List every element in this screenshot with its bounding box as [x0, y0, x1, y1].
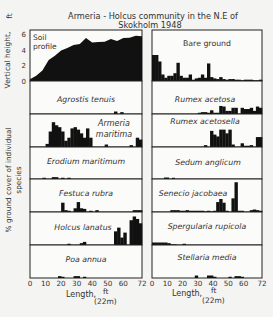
- soil-tick-label: 0: [22, 78, 26, 86]
- bar: [155, 55, 158, 81]
- bar: [74, 208, 77, 212]
- bar: [49, 132, 52, 148]
- bar: [74, 127, 77, 147]
- bar: [244, 109, 247, 114]
- bar: [74, 276, 77, 278]
- bar: [55, 125, 58, 147]
- panel-stellaria-media: Stellaria media: [152, 245, 262, 278]
- y-unit-ft: ft: [5, 13, 14, 19]
- bar: [219, 130, 222, 147]
- bar: [83, 277, 86, 278]
- bar: [80, 133, 83, 147]
- bar: [219, 199, 222, 212]
- soil-tick-label: 4: [22, 47, 27, 55]
- panel-label: Soil: [33, 33, 47, 42]
- x-ticks-right: 010203040506072: [150, 279, 267, 288]
- bar: [61, 277, 64, 278]
- bar: [136, 138, 139, 147]
- bar: [207, 276, 210, 278]
- bar: [133, 216, 136, 245]
- bar: [70, 128, 73, 147]
- right-column-panels: Bare groundRumex acetosaRumex acetosella…: [152, 30, 262, 278]
- bar: [77, 130, 80, 147]
- x-unit-left: ft: [103, 287, 109, 296]
- panel-bare-ground: Bare ground: [152, 30, 262, 81]
- bar: [170, 76, 173, 81]
- panel-label: maritima: [96, 130, 132, 139]
- bar: [235, 108, 238, 114]
- soil-y-ticks: 0246: [22, 31, 27, 86]
- x-tick-label: 10: [163, 279, 173, 288]
- bar: [231, 108, 234, 114]
- panel-label: Poa annua: [65, 255, 106, 264]
- panel-label: Rumex acetosa: [175, 95, 236, 104]
- panel-label: Bare ground: [183, 39, 231, 48]
- bar: [61, 132, 64, 148]
- x-tick-label: 72: [257, 279, 266, 288]
- bar: [256, 107, 259, 114]
- panel-label: Rumex acetosella: [170, 117, 240, 126]
- bar: [210, 276, 213, 278]
- bar: [247, 109, 250, 114]
- bar: [161, 75, 164, 82]
- x-tick-label: 20: [57, 279, 67, 288]
- panel-label: Erodium maritimum: [47, 157, 126, 166]
- bar: [80, 208, 83, 212]
- panel-erodium-maritimum: Erodium maritimum: [30, 147, 142, 179]
- bar: [83, 138, 86, 147]
- bar: [213, 277, 216, 278]
- bar: [176, 63, 179, 81]
- bar: [139, 140, 142, 147]
- soil-tick-label: 2: [22, 62, 26, 70]
- panel-label: Festuca rubra: [59, 189, 113, 198]
- bar: [216, 136, 219, 147]
- bar: [167, 76, 170, 81]
- panel-rumex-acetosella: Rumex acetosella: [152, 114, 262, 147]
- panel-senecio-jacobaea: Senecio jacobaea: [152, 179, 262, 212]
- x-label-right: Length,: [172, 289, 202, 298]
- bar: [235, 182, 238, 212]
- x-tick-label: 30: [72, 279, 82, 288]
- bar: [222, 203, 225, 212]
- bar: [120, 238, 123, 245]
- bar: [58, 276, 61, 278]
- panel-rumex-acetosa: Rumex acetosa: [152, 81, 262, 114]
- x-tick-label: 10: [41, 279, 51, 288]
- x-tick-label: 50: [224, 279, 234, 288]
- bar: [77, 276, 80, 278]
- bar: [61, 203, 64, 212]
- bar: [235, 276, 238, 278]
- panel-label: Agrostis tenuis: [56, 95, 115, 104]
- x-ticks-left: 010203040506072: [28, 279, 147, 288]
- bar: [86, 128, 89, 147]
- bar: [241, 143, 244, 147]
- panel-label: Holcus lanatus: [54, 223, 111, 232]
- x-tick-label: 72: [137, 279, 146, 288]
- bar: [225, 133, 228, 147]
- bar: [219, 77, 222, 81]
- bar: [210, 77, 213, 81]
- x-tick-label: 30: [193, 279, 203, 288]
- bar: [89, 138, 92, 147]
- bar: [152, 55, 155, 81]
- bar: [180, 76, 183, 81]
- x-tick-label: 40: [88, 279, 98, 288]
- bar: [228, 277, 231, 278]
- y-label-ground-cover-1: % ground cover of individual: [4, 128, 13, 233]
- panel-label: Spergularia rupicola: [168, 222, 247, 231]
- bar: [216, 202, 219, 212]
- bar: [210, 110, 213, 114]
- panel-armeria-maritima: Armeriamaritima: [30, 114, 142, 147]
- bar: [250, 108, 253, 114]
- figure-title-line2: Skokholm 1948: [118, 20, 181, 30]
- bar: [241, 277, 244, 278]
- y-label-ground-cover-2: species: [14, 166, 23, 193]
- bar: [114, 231, 117, 245]
- x-tick-label: 0: [150, 279, 155, 288]
- panel-festuca-rubra: Festuca rubra: [30, 179, 142, 212]
- bar: [222, 107, 225, 114]
- bar: [207, 63, 210, 81]
- x-tick-label: 20: [178, 279, 188, 288]
- panel-holcus-lanatus: Holcus lanatus: [30, 212, 142, 245]
- panel-sedum-anglicum: Sedum anglicum: [152, 147, 262, 179]
